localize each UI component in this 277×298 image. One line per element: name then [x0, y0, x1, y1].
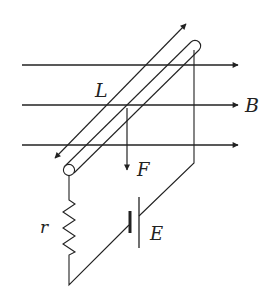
resistor-wire: [63, 176, 129, 285]
rod-far-end: [191, 40, 201, 50]
physics-diagram: L B F r E: [0, 0, 277, 298]
length-label: L: [94, 79, 108, 101]
field-label: B: [244, 94, 259, 116]
emf-label: E: [149, 223, 163, 244]
rod-near-end: [63, 164, 74, 175]
conducting-rod: [63, 40, 200, 175]
resistance-label: r: [40, 217, 49, 237]
force-label: F: [136, 159, 151, 180]
battery: [130, 197, 139, 248]
magnetic-field-lines: [22, 65, 238, 145]
right-wire: [139, 50, 194, 216]
length-arrow: [55, 24, 186, 158]
